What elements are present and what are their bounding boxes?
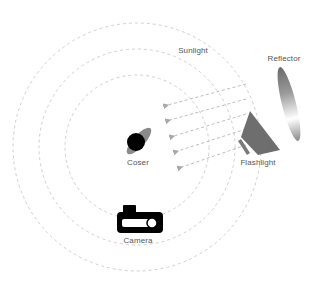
reflector-icon xyxy=(273,65,305,142)
light-ray-arrow xyxy=(170,99,246,120)
light-ray-arrow xyxy=(182,145,246,167)
light-ray-arrow xyxy=(178,129,246,151)
lighting-diagram xyxy=(0,0,315,288)
sunlight-label: Sunlight xyxy=(178,46,208,55)
reflector-label: Reflector xyxy=(268,54,301,63)
coser-label: Coser xyxy=(127,158,149,167)
coser-icon xyxy=(123,124,155,157)
flashlight-label: Flashlight xyxy=(240,158,275,167)
camera-icon xyxy=(117,205,163,233)
flashlight-icon xyxy=(238,111,280,155)
camera-label: Camera xyxy=(123,236,152,245)
